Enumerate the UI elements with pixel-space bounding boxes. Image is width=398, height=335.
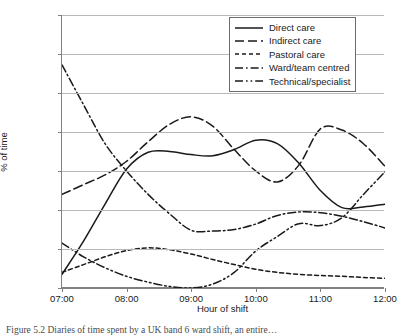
gridline xyxy=(62,210,384,211)
technical-specialist-swatch xyxy=(234,75,264,87)
series-line-direct-care xyxy=(62,140,385,275)
y-tick-mark xyxy=(58,249,62,250)
x-tick-mark xyxy=(256,288,257,292)
y-tick-mark xyxy=(58,210,62,211)
gridline xyxy=(62,171,384,172)
x-tick-mark xyxy=(62,288,63,292)
x-axis-title: Hour of shift xyxy=(61,303,384,314)
x-tick-mark xyxy=(191,288,192,292)
indirect-care-swatch xyxy=(234,35,264,47)
legend-label: Technical/specialist xyxy=(269,77,350,87)
legend-label: Ward/team centred xyxy=(269,63,349,73)
ward-team-centred-swatch xyxy=(234,62,264,74)
legend-label: Direct care xyxy=(269,23,315,33)
y-tick-mark xyxy=(58,171,62,172)
gridline xyxy=(62,15,384,16)
x-tick-mark xyxy=(385,288,386,292)
legend-item-indirect-care[interactable]: Indirect care xyxy=(234,34,350,47)
series-line-pastoral-care xyxy=(62,248,385,278)
y-axis-title: % of time xyxy=(0,132,9,172)
series-line-indirect-care xyxy=(62,117,385,195)
x-tick-mark xyxy=(127,288,128,292)
legend-item-direct-care[interactable]: Direct care xyxy=(234,21,350,34)
y-tick-mark xyxy=(58,93,62,94)
y-tick-mark xyxy=(58,54,62,55)
legend-item-ward-team-centred[interactable]: Ward/team centred xyxy=(234,61,350,74)
y-tick-mark xyxy=(58,132,62,133)
figure-caption: Figure 5.2 Diaries of time spent by a UK… xyxy=(6,325,398,335)
legend-label: Indirect care xyxy=(269,36,321,46)
legend-item-pastoral-care[interactable]: Pastoral care xyxy=(234,48,350,61)
series-line-technical-specialist xyxy=(62,172,385,288)
gridline xyxy=(62,132,384,133)
gridline xyxy=(62,288,384,289)
gridline xyxy=(62,93,384,94)
x-tick-mark xyxy=(320,288,321,292)
gridline xyxy=(62,249,384,250)
legend-item-technical-specialist[interactable]: Technical/specialist xyxy=(234,75,350,88)
y-tick-mark xyxy=(58,15,62,16)
legend: Direct careIndirect carePastoral careWar… xyxy=(229,17,356,92)
pastoral-care-swatch xyxy=(234,48,264,60)
legend-label: Pastoral care xyxy=(269,50,325,60)
direct-care-swatch xyxy=(234,22,264,34)
y-axis-title-label: % of time xyxy=(0,132,9,172)
